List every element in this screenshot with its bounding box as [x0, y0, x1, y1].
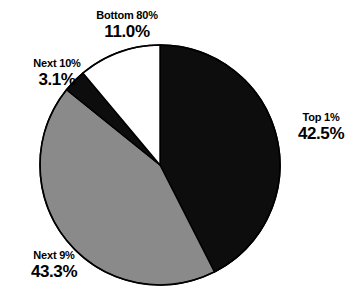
slice-label-category: Next 9% [6, 250, 102, 261]
slice-label-category: Top 1% [286, 112, 356, 123]
slice-label-category: Bottom 80% [68, 10, 186, 21]
slice-label-bottom-80-percent: Bottom 80% 11.0% [68, 10, 186, 40]
slice-label-top-1-percent: Top 1% 42.5% [286, 112, 356, 142]
slice-label-value: 43.3% [6, 263, 102, 280]
slice-label-value: 3.1% [8, 71, 106, 88]
pie-chart-figure: Top 1% 42.5% Next 9% 43.3% Next 10% 3.1%… [0, 0, 361, 304]
slice-label-next-10-percent: Next 10% 3.1% [8, 58, 106, 88]
slice-label-value: 11.0% [68, 23, 186, 40]
slice-label-next-9-percent: Next 9% 43.3% [6, 250, 102, 280]
slice-label-value: 42.5% [286, 125, 356, 142]
slice-label-category: Next 10% [8, 58, 106, 69]
